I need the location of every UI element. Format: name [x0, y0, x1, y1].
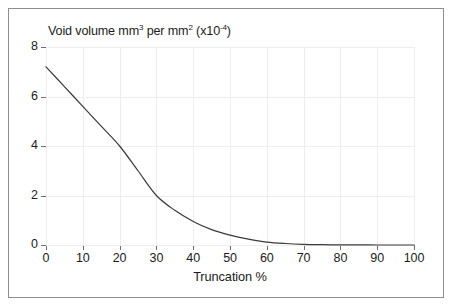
- x-axis-tick-label: 90: [357, 251, 397, 265]
- gridline-vertical: [414, 47, 415, 245]
- x-axis-tick: [230, 246, 231, 250]
- x-axis-tick: [46, 246, 47, 250]
- x-axis-tick-label: 50: [210, 251, 250, 265]
- x-axis-tick-label: 0: [26, 251, 66, 265]
- x-axis-tick: [377, 246, 378, 250]
- title-mid: per mm: [143, 24, 188, 38]
- series-void-volume: [46, 47, 414, 245]
- x-axis-tick-label: 80: [320, 251, 360, 265]
- x-axis-tick-label: 60: [247, 251, 287, 265]
- x-axis-tick: [304, 246, 305, 250]
- y-axis-tick: [41, 146, 46, 147]
- x-axis-tick-label: 30: [136, 251, 176, 265]
- curve-path: [46, 67, 414, 245]
- x-axis-tick: [193, 246, 194, 250]
- x-axis-tick-label: 10: [63, 251, 103, 265]
- x-axis-tick: [120, 246, 121, 250]
- y-axis-tick-label: 0: [18, 237, 38, 251]
- title-scale-close: ): [227, 24, 231, 38]
- x-axis-tick-label: 20: [100, 251, 140, 265]
- y-axis-tick: [41, 245, 46, 246]
- x-axis-tick: [156, 246, 157, 250]
- x-axis-tick: [340, 246, 341, 250]
- x-axis-tick-label: 40: [173, 251, 213, 265]
- chart-figure: Void volume mm3 per mm2 (x10-4) 01020304…: [0, 0, 454, 308]
- y-axis-tick: [41, 196, 46, 197]
- x-axis-label: Truncation %: [46, 269, 414, 284]
- chart-title: Void volume mm3 per mm2 (x10-4): [48, 24, 231, 38]
- y-axis-tick: [41, 47, 46, 48]
- x-axis-tick: [414, 246, 415, 250]
- y-axis-tick-label: 2: [18, 188, 38, 202]
- title-superscript-exponent: -4: [220, 23, 227, 32]
- title-scale-open: (x10: [193, 24, 220, 38]
- y-axis-tick: [41, 97, 46, 98]
- plot-area: [46, 47, 414, 245]
- x-axis-tick: [83, 246, 84, 250]
- x-axis-tick: [267, 246, 268, 250]
- x-axis-tick-label: 70: [284, 251, 324, 265]
- y-axis-tick-label: 8: [18, 39, 38, 53]
- x-axis-tick-label: 100: [394, 251, 434, 265]
- y-axis-tick-label: 6: [18, 89, 38, 103]
- title-lead: Void volume mm: [48, 24, 139, 38]
- y-axis-tick-label: 4: [18, 138, 38, 152]
